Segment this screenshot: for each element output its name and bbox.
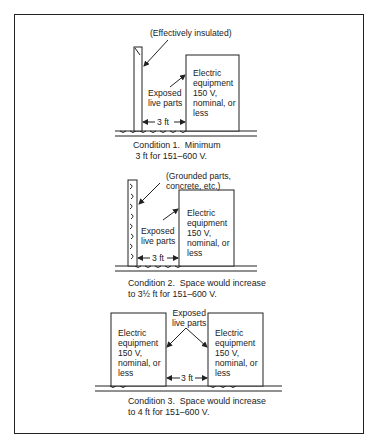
insulation-label-1: (Effectively insulated): [150, 28, 232, 38]
equipment-label-2: Electric equipment 150 V, nominal, or le…: [187, 208, 230, 258]
equipment-right-label-3: Electric equipment 150 V, nominal, or le…: [215, 328, 258, 378]
condition-3-caption: Condition 3. Space would increase to 4 f…: [128, 396, 266, 417]
condition-1-caption: Condition 1. Minimum 3 ft for 151–600 V.: [133, 140, 221, 161]
exposed-live-parts-label-1: Exposed live parts: [148, 88, 182, 108]
equipment-label-1: Electric equipment 150 V, nominal, or le…: [193, 68, 236, 118]
distance-label-3: 3 ft: [181, 373, 193, 383]
equipment-left-label-3: Electric equipment 150 V, nominal, or le…: [118, 328, 161, 378]
condition-1-drawing: [115, 40, 257, 136]
condition-2-caption: Condition 2. Space would increase to 3½ …: [128, 278, 266, 299]
exposed-live-parts-label-2: Exposed live parts: [141, 226, 175, 246]
distance-label-1: 3 ft: [157, 117, 169, 127]
insulation-label-2: (Grounded parts, concrete, etc.): [166, 171, 231, 191]
exposed-live-parts-label-3: Exposed live parts: [172, 308, 206, 328]
condition-2-drawing: [115, 180, 257, 271]
distance-label-2: 3 ft: [152, 253, 164, 263]
